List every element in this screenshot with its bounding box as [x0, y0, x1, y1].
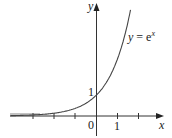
curve-equation-label: y = ex — [128, 30, 155, 43]
exponential-graph: y x 0 1 1 y = ex — [0, 0, 172, 138]
eq-exponent: x — [151, 29, 155, 38]
origin-label: 0 — [88, 119, 94, 131]
x-axis-label: x — [159, 119, 164, 131]
eq-body: = e — [133, 30, 151, 44]
x-tick-label-1: 1 — [114, 120, 120, 132]
y-axis-arrow-icon — [94, 3, 100, 11]
y-axis-label: y — [88, 0, 93, 12]
y-tick-label-1: 1 — [88, 86, 94, 98]
exp-curve — [10, 10, 130, 116]
plot-area — [0, 0, 172, 138]
